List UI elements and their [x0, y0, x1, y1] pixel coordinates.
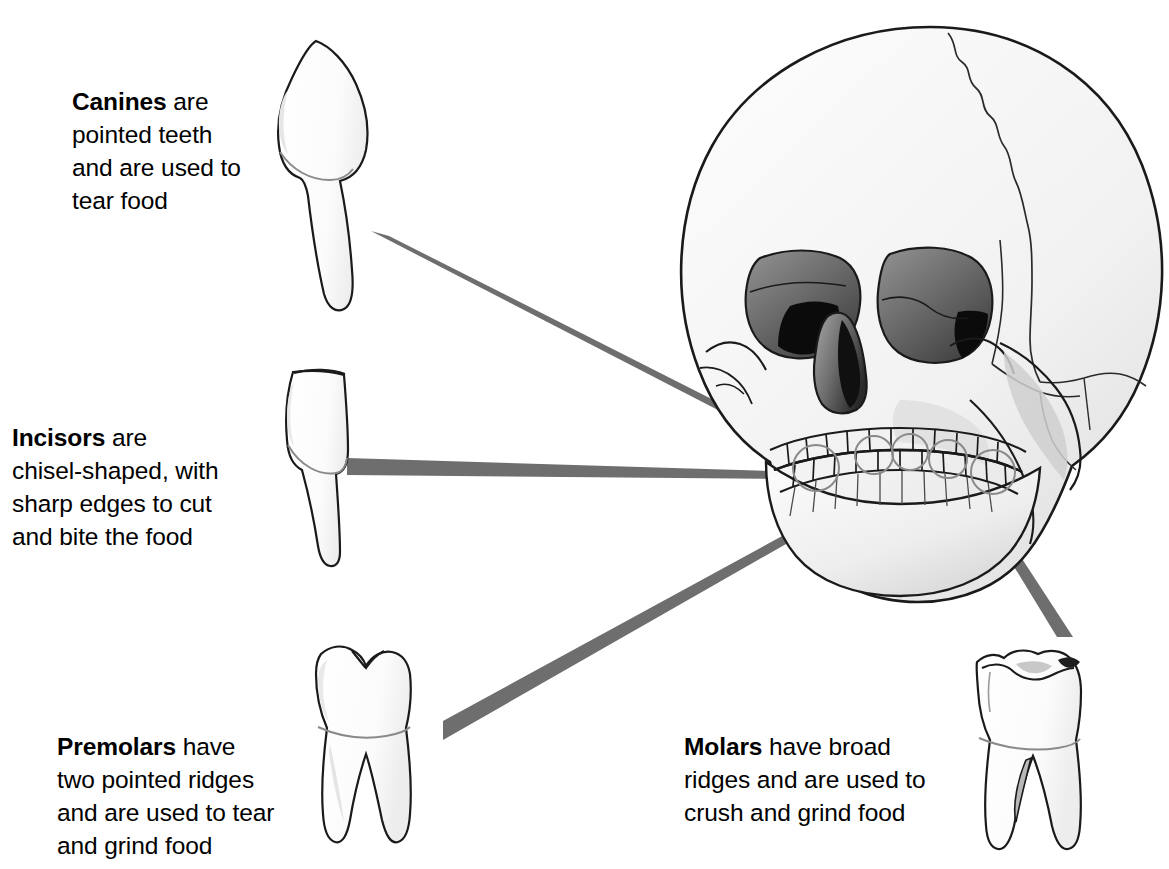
premolar-tooth	[316, 647, 411, 843]
lower-tooth-sep	[1005, 465, 1006, 486]
molar-tooth	[977, 651, 1081, 850]
incisor-outline	[286, 371, 348, 566]
incisor-tooth	[286, 370, 348, 566]
upper-tooth-sep	[869, 429, 870, 450]
label-incisors-term: Incisors	[12, 424, 105, 451]
label-canines-term: Canines	[72, 88, 167, 115]
upper-tooth-sep	[997, 442, 998, 463]
figure-canvas: Canines are pointed teeth and are used t…	[0, 0, 1169, 869]
lower-tooth-sep	[943, 452, 944, 473]
lower-tooth-sep	[986, 460, 987, 481]
label-incisors: Incisors are chisel-shaped, with sharp e…	[12, 388, 262, 553]
upper-tooth-sep	[847, 431, 848, 452]
label-molars: Molars have broad ridges and are used to…	[684, 697, 974, 829]
human-skull	[681, 27, 1162, 602]
label-premolars-term: Premolars	[57, 733, 176, 760]
lower-tooth-sep	[813, 459, 814, 480]
leader-incisors	[347, 458, 802, 479]
upper-tooth-sep	[956, 433, 957, 454]
upper-tooth-sep	[934, 430, 935, 451]
lower-tooth-sep	[834, 455, 835, 476]
label-canines: Canines are pointed teeth and are used t…	[72, 52, 302, 217]
premolar-outline	[316, 647, 411, 843]
label-premolars: Premolars have two pointed ridges and ar…	[57, 697, 327, 862]
label-molars-term: Molars	[684, 733, 762, 760]
